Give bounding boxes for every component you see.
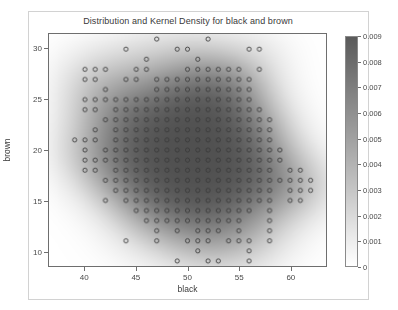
colorbar-gradient (345, 36, 358, 267)
colorbar-tick-mark (358, 139, 361, 140)
colorbar-tick-mark (358, 164, 361, 165)
colorbar-tick-label: 0.003 (363, 186, 382, 195)
colorbar (345, 36, 358, 267)
y-tick-mark (44, 150, 48, 151)
y-tick-label: 25 (24, 95, 42, 104)
colorbar-tick-mark (358, 113, 361, 114)
x-tick-label: 40 (80, 273, 89, 282)
colorbar-tick-label: 0.005 (363, 134, 382, 143)
scatter-points-layer (49, 34, 326, 266)
colorbar-tick-mark (358, 36, 361, 37)
y-tick-label: 30 (24, 44, 42, 53)
x-tick-mark (291, 267, 292, 271)
colorbar-tick-label: 0.009 (363, 32, 382, 41)
x-tick-label: 50 (183, 273, 192, 282)
x-tick-label: 45 (131, 273, 140, 282)
cropped-text-artifact (0, 0, 398, 9)
y-tick-label: 15 (24, 196, 42, 205)
colorbar-tick-mark (358, 267, 361, 268)
chart-title: Distribution and Kernel Density for blac… (48, 16, 328, 26)
colorbar-tick-label: 0.004 (363, 160, 382, 169)
colorbar-tick-mark (358, 241, 361, 242)
colorbar-tick-mark (358, 216, 361, 217)
colorbar-tick-label: 0.007 (363, 83, 382, 92)
y-tick-label: 10 (24, 247, 42, 256)
colorbar-tick-mark (358, 190, 361, 191)
colorbar-tick-label: 0.002 (363, 211, 382, 220)
y-tick-label: 20 (24, 146, 42, 155)
y-tick-mark (44, 99, 48, 100)
x-tick-mark (84, 267, 85, 271)
plot-panel (48, 33, 327, 267)
chart-screenshot: Distribution and Kernel Density for blac… (0, 0, 398, 310)
x-tick-mark (188, 267, 189, 271)
colorbar-tick-label: 0 (363, 263, 367, 272)
colorbar-tick-label: 0.008 (363, 57, 382, 66)
x-axis-title: black (48, 284, 327, 294)
colorbar-tick-label: 0.006 (363, 109, 382, 118)
x-tick-mark (136, 267, 137, 271)
x-tick-label: 60 (286, 273, 295, 282)
y-tick-mark (44, 48, 48, 49)
colorbar-tick-label: 0.001 (363, 237, 382, 246)
y-axis-title: brown (2, 138, 12, 161)
x-tick-mark (239, 267, 240, 271)
colorbar-tick-mark (358, 87, 361, 88)
y-tick-mark (44, 252, 48, 253)
colorbar-tick-mark (358, 62, 361, 63)
y-tick-mark (44, 201, 48, 202)
x-tick-label: 55 (235, 273, 244, 282)
